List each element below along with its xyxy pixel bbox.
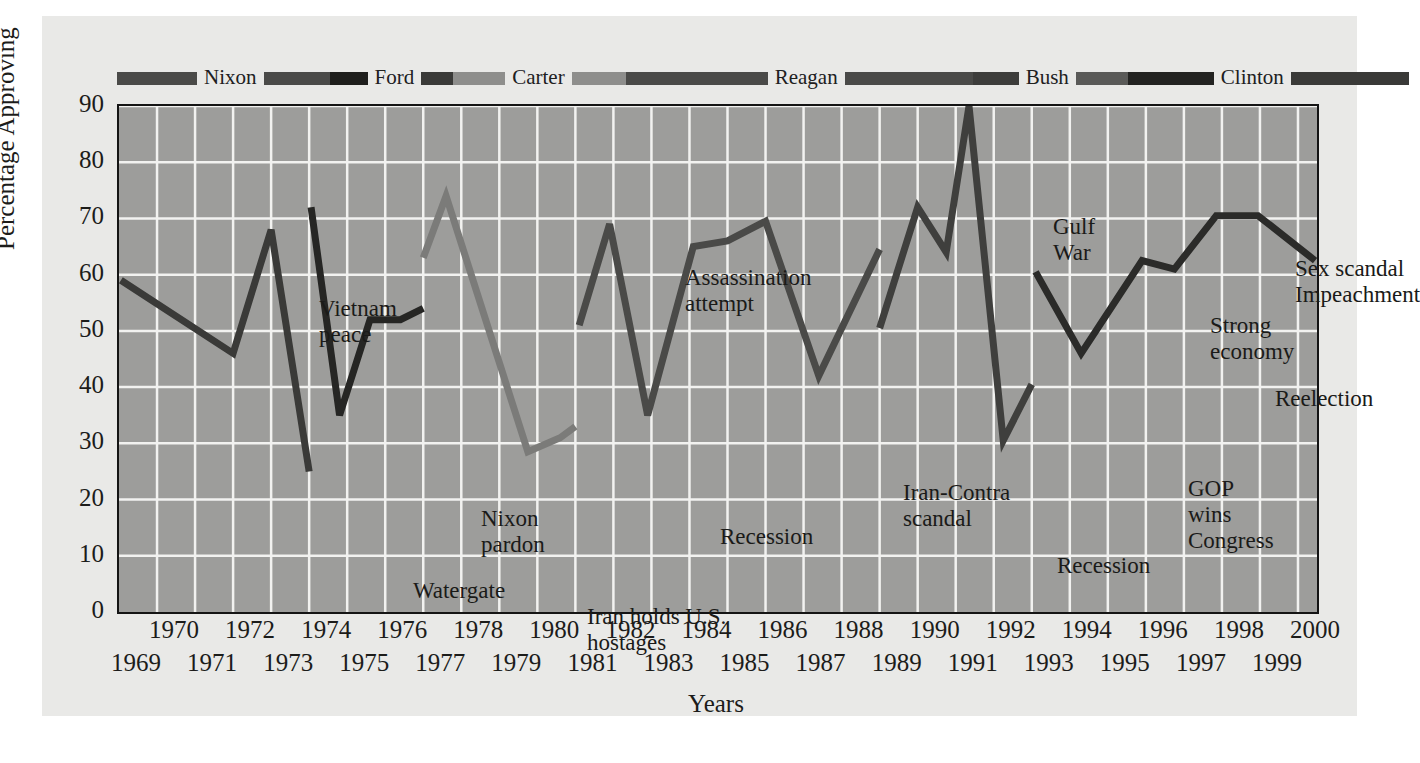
- y-tick-80: 80: [44, 147, 104, 172]
- x-tick-1977: 1977: [415, 650, 465, 675]
- president-legend: NixonFordCarterReaganBushClinton: [117, 70, 1315, 87]
- legend-bar-segment: [264, 72, 330, 85]
- x-tick-1970: 1970: [149, 617, 199, 642]
- x-tick-1992: 1992: [986, 617, 1036, 642]
- x-tick-1973: 1973: [263, 650, 313, 675]
- annotation-iran-contra: Iran-Contra scandal: [903, 480, 1010, 532]
- annotation-recession-1992: Recession: [1057, 553, 1150, 579]
- y-tick-90: 90: [44, 91, 104, 116]
- x-tick-1974: 1974: [301, 617, 351, 642]
- annotation-vietnam-peace: Vietnam peace: [319, 296, 397, 348]
- x-tick-1995: 1995: [1100, 650, 1150, 675]
- legend-bar-segment: [421, 72, 453, 85]
- x-tick-1975: 1975: [339, 650, 389, 675]
- legend-bar-segment: [453, 72, 505, 85]
- x-tick-1993: 1993: [1024, 650, 1074, 675]
- annotation-gulf-war: Gulf War: [1053, 214, 1095, 266]
- legend-bar-segment: [973, 72, 1019, 85]
- annotation-sex-scandal: Sex scandal Impeachment: [1295, 256, 1420, 308]
- x-axis-label: Years: [688, 690, 744, 718]
- legend-label-carter: Carter: [505, 67, 571, 88]
- legend-label-reagan: Reagan: [768, 67, 845, 88]
- annotation-gop-congress: GOP wins Congress: [1188, 476, 1274, 553]
- annotation-nixon-pardon: Nixon pardon: [481, 506, 545, 558]
- y-tick-0: 0: [44, 597, 104, 622]
- plot-svg: [119, 106, 1317, 612]
- y-tick-20: 20: [44, 485, 104, 510]
- legend-label-clinton: Clinton: [1214, 67, 1291, 88]
- x-tick-1988: 1988: [834, 617, 884, 642]
- y-axis-label: Percentage Approving: [0, 27, 20, 250]
- legend-bar-segment: [330, 72, 368, 85]
- x-tick-1996: 1996: [1138, 617, 1188, 642]
- annotation-assassination: Assassination attempt: [685, 265, 812, 317]
- x-tick-1994: 1994: [1062, 617, 1112, 642]
- y-tick-50: 50: [44, 316, 104, 341]
- x-tick-1985: 1985: [720, 650, 770, 675]
- legend-label-bush: Bush: [1019, 67, 1076, 88]
- legend-bar-segment: [626, 72, 768, 85]
- x-tick-1969: 1969: [111, 650, 161, 675]
- annotation-strong-economy: Strong economy: [1210, 313, 1294, 365]
- legend-bar-segment: [845, 72, 973, 85]
- x-tick-1998: 1998: [1214, 617, 1264, 642]
- legend-label-nixon: Nixon: [197, 67, 264, 88]
- x-tick-1978: 1978: [453, 617, 503, 642]
- y-tick-70: 70: [44, 203, 104, 228]
- y-tick-10: 10: [44, 541, 104, 566]
- annotation-reelection: Reelection: [1275, 386, 1373, 412]
- approval-line-chart: Vietnam peaceWatergateNixon pardonIran h…: [117, 104, 1319, 614]
- x-tick-2000: 2000: [1290, 617, 1340, 642]
- y-tick-60: 60: [44, 260, 104, 285]
- x-tick-1972: 1972: [225, 617, 275, 642]
- series-line-nixon: [121, 230, 309, 472]
- annotation-watergate: Watergate: [413, 578, 505, 604]
- annotation-iran-hostages: Iran holds U.S. hostages: [587, 604, 726, 656]
- x-tick-1979: 1979: [491, 650, 541, 675]
- x-tick-1997: 1997: [1176, 650, 1226, 675]
- x-tick-1999: 1999: [1252, 650, 1302, 675]
- x-tick-1986: 1986: [758, 617, 808, 642]
- x-tick-1987: 1987: [796, 650, 846, 675]
- x-tick-1971: 1971: [187, 650, 237, 675]
- annotation-recession-1982: Recession: [720, 524, 813, 550]
- gridlines: [119, 106, 1317, 612]
- legend-bar-segment: [1291, 72, 1409, 85]
- legend-bar-segment: [117, 72, 197, 85]
- legend-bar-segment: [572, 72, 626, 85]
- x-tick-1990: 1990: [910, 617, 960, 642]
- x-tick-1991: 1991: [948, 650, 998, 675]
- legend-bar-segment: [1128, 72, 1214, 85]
- legend-label-ford: Ford: [368, 67, 422, 88]
- x-tick-1989: 1989: [872, 650, 922, 675]
- y-tick-30: 30: [44, 428, 104, 453]
- y-tick-40: 40: [44, 372, 104, 397]
- x-tick-1980: 1980: [529, 617, 579, 642]
- legend-bar-segment: [1076, 72, 1128, 85]
- x-tick-1976: 1976: [377, 617, 427, 642]
